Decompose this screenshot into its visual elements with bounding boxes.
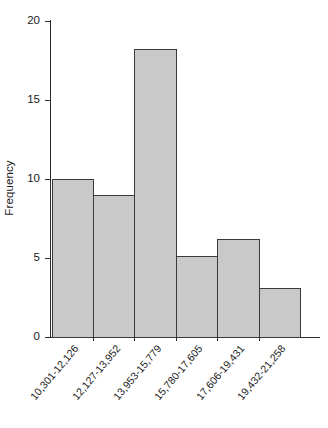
y-tick-label: 10 <box>14 173 40 185</box>
x-tick-label: 10,301-12,126 <box>0 343 81 428</box>
y-axis-title: Frequency <box>3 133 19 243</box>
y-tick-mark <box>45 337 50 338</box>
y-tick-mark <box>45 179 50 180</box>
y-tick-mark <box>45 258 50 259</box>
bar <box>259 288 302 338</box>
bar <box>176 256 219 338</box>
x-tick-mark <box>217 337 218 341</box>
y-tick-mark <box>45 100 50 101</box>
x-tick-mark <box>259 337 260 341</box>
x-tick-mark <box>134 337 135 341</box>
y-tick-label: 0 <box>14 331 40 343</box>
y-tick-label: 15 <box>14 94 40 106</box>
x-tick-mark <box>176 337 177 341</box>
y-tick-mark <box>45 21 50 22</box>
histogram-chart: Frequency 05101520 10,301-12,12612,127-1… <box>0 0 328 428</box>
bar <box>134 49 177 338</box>
y-tick-label: 5 <box>14 252 40 264</box>
bar <box>52 179 95 338</box>
bar <box>93 195 136 338</box>
bar <box>217 239 260 338</box>
x-tick-mark <box>93 337 94 341</box>
y-tick-label: 20 <box>14 15 40 27</box>
